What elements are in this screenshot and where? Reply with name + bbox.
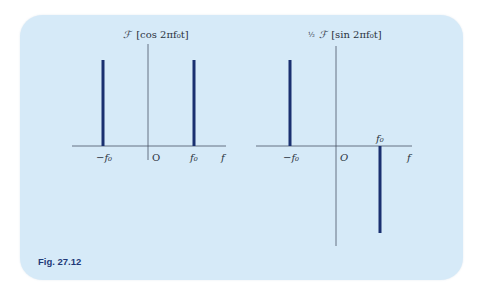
- fourier-symbol: ℱ: [123, 29, 133, 40]
- left-plot: ℱ [cos 2πf₀t] −f₀ O f₀ f: [72, 29, 227, 163]
- left-label-neg-f0: −f₀: [96, 152, 112, 163]
- right-title: ½ ℱ [sin 2πf₀t]: [308, 28, 382, 40]
- right-label-f-axis: f: [406, 152, 413, 163]
- figure-caption: Fig. 27.12: [38, 256, 81, 267]
- left-label-origin: O: [152, 152, 160, 163]
- left-title-body: [cos 2πf₀t]: [136, 29, 188, 40]
- right-plot: ½ ℱ [sin 2πf₀t] −f₀ O f₀ f: [256, 28, 413, 246]
- left-label-pos-f0: f₀: [189, 152, 198, 163]
- right-title-fraction: ½: [308, 31, 315, 39]
- fourier-diagram: ℱ [cos 2πf₀t] −f₀ O f₀ f ½ ℱ [sin 2πf₀t]…: [0, 0, 483, 295]
- right-label-pos-f0: f₀: [375, 133, 384, 144]
- right-title-body: [sin 2πf₀t]: [331, 29, 382, 40]
- fourier-symbol: ℱ: [319, 29, 329, 40]
- right-label-origin: O: [340, 152, 348, 163]
- right-label-neg-f0: −f₀: [283, 152, 299, 163]
- left-label-f-axis: f: [220, 152, 227, 163]
- left-title: ℱ [cos 2πf₀t]: [123, 29, 189, 40]
